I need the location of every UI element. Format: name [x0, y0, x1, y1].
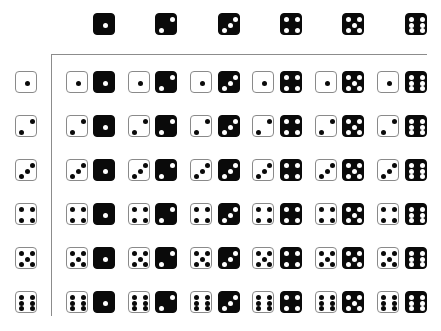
pip-icon	[256, 251, 261, 256]
pip-icon	[357, 75, 362, 80]
pip-icon	[409, 163, 414, 168]
pip-icon	[70, 295, 75, 300]
row-header-die-three-icon	[15, 159, 37, 181]
pip-icon	[346, 119, 351, 124]
column-header-die-four-icon	[280, 13, 302, 35]
black-die-six-icon	[405, 115, 427, 137]
pip-icon	[319, 306, 324, 311]
black-die-two-icon	[155, 291, 177, 313]
black-die-two-icon	[155, 71, 177, 93]
white-die-one-icon	[128, 71, 150, 93]
pip-icon	[267, 306, 272, 311]
pip-icon	[295, 207, 300, 212]
black-die-four-icon	[280, 159, 302, 181]
pip-icon	[352, 81, 357, 86]
pip-icon	[381, 174, 386, 179]
white-die-three-icon	[190, 159, 212, 181]
pip-icon	[295, 262, 300, 267]
pip-icon	[103, 257, 108, 262]
pip-icon	[392, 207, 397, 212]
pip-icon	[267, 262, 272, 267]
pip-icon	[330, 163, 335, 168]
pip-icon	[222, 262, 227, 267]
pip-icon	[170, 251, 175, 256]
pip-icon	[143, 262, 148, 267]
pip-icon	[420, 174, 425, 179]
black-die-one-icon	[93, 203, 115, 225]
pip-icon	[409, 251, 414, 256]
pip-icon	[267, 119, 272, 124]
black-die-five-icon	[342, 159, 364, 181]
pip-icon	[19, 295, 24, 300]
pip-icon	[103, 23, 108, 28]
white-die-three-icon	[315, 159, 337, 181]
pip-icon	[30, 218, 35, 223]
pip-icon	[409, 75, 414, 80]
pip-icon	[170, 119, 175, 124]
pip-icon	[381, 295, 386, 300]
pip-icon	[387, 81, 392, 86]
black-die-three-icon	[218, 203, 240, 225]
pip-icon	[222, 218, 227, 223]
pip-icon	[284, 130, 289, 135]
pip-icon	[30, 251, 35, 256]
pip-icon	[159, 28, 164, 33]
pip-icon	[319, 251, 324, 256]
white-die-one-icon	[377, 71, 399, 93]
pip-icon	[420, 163, 425, 168]
pip-icon	[170, 75, 175, 80]
pip-icon	[159, 262, 164, 267]
pip-icon	[159, 130, 164, 135]
pip-icon	[267, 218, 272, 223]
pip-icon	[267, 163, 272, 168]
row-header-die-four-icon	[15, 203, 37, 225]
pip-icon	[330, 301, 335, 306]
pip-icon	[222, 130, 227, 135]
black-die-five-icon	[342, 71, 364, 93]
pip-icon	[159, 86, 164, 91]
black-die-two-icon	[155, 247, 177, 269]
pip-icon	[143, 301, 148, 306]
pip-icon	[409, 257, 414, 262]
pip-icon	[194, 306, 199, 311]
row-header-die-six-icon	[15, 291, 37, 313]
white-die-four-icon	[66, 203, 88, 225]
column-header-die-two-icon	[155, 13, 177, 35]
column-header-die-three-icon	[218, 13, 240, 35]
black-die-one-icon	[93, 115, 115, 137]
black-die-six-icon	[405, 203, 427, 225]
pip-icon	[76, 169, 81, 174]
pip-icon	[420, 125, 425, 130]
pip-icon	[409, 295, 414, 300]
white-die-one-icon	[252, 71, 274, 93]
pip-icon	[267, 295, 272, 300]
pip-icon	[381, 218, 386, 223]
pip-icon	[256, 174, 261, 179]
pip-icon	[392, 262, 397, 267]
pip-icon	[346, 163, 351, 168]
black-die-five-icon	[342, 247, 364, 269]
black-die-one-icon	[93, 71, 115, 93]
pip-icon	[392, 306, 397, 311]
pip-icon	[256, 301, 261, 306]
pip-icon	[409, 169, 414, 174]
pip-icon	[387, 257, 392, 262]
pip-icon	[284, 207, 289, 212]
pip-icon	[159, 218, 164, 223]
pip-icon	[352, 257, 357, 262]
pip-icon	[284, 306, 289, 311]
pip-icon	[228, 23, 233, 28]
pip-icon	[256, 306, 261, 311]
pip-icon	[205, 306, 210, 311]
pip-icon	[19, 174, 24, 179]
pip-icon	[132, 130, 137, 135]
pip-icon	[103, 213, 108, 218]
pip-icon	[200, 169, 205, 174]
pip-icon	[81, 301, 86, 306]
pip-icon	[256, 295, 261, 300]
column-header-divider	[51, 54, 427, 55]
pip-icon	[420, 17, 425, 22]
pip-icon	[76, 257, 81, 262]
pip-icon	[387, 169, 392, 174]
pip-icon	[330, 251, 335, 256]
